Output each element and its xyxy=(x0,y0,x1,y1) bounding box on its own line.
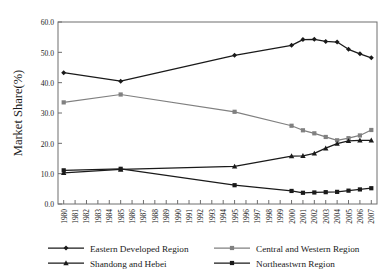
y-tick-label: 10.0 xyxy=(41,170,54,179)
data-point-marker xyxy=(62,168,66,172)
data-point-marker xyxy=(358,133,362,137)
data-point-marker xyxy=(369,186,373,190)
data-point-marker xyxy=(119,167,123,171)
data-point-marker xyxy=(312,190,316,194)
x-tick-label: 1995 xyxy=(231,209,240,224)
data-point-marker xyxy=(289,124,293,128)
data-point-marker xyxy=(346,189,350,193)
x-tick-label: 1986 xyxy=(128,209,137,224)
x-tick-label: 1989 xyxy=(162,209,171,224)
x-tick-label: 1990 xyxy=(174,209,183,224)
legend-label: Shandong and Hebei xyxy=(90,259,167,269)
x-tick-label: 2000 xyxy=(288,209,297,224)
y-axis-title-text: Market Share(%) xyxy=(11,70,25,156)
x-tick-label: 1999 xyxy=(276,209,285,224)
data-point-marker xyxy=(312,131,316,135)
x-tick-label: 2002 xyxy=(310,209,319,224)
data-point-marker xyxy=(62,100,66,104)
x-tick-label: 1992 xyxy=(196,209,205,224)
y-axis-title: Market Share(%) xyxy=(11,70,25,156)
legend-label: Northeastwrn Region xyxy=(256,259,335,269)
legend-label: Eastern Developed Region xyxy=(90,244,189,254)
x-tick-label: 2004 xyxy=(333,209,342,224)
data-point-marker xyxy=(335,190,339,194)
data-point-marker xyxy=(324,135,328,139)
x-tick-label: 1982 xyxy=(82,209,91,224)
data-point-marker xyxy=(301,191,305,195)
data-point-marker xyxy=(369,128,373,132)
y-tick-label: 0.0 xyxy=(45,200,55,209)
data-point-marker xyxy=(301,128,305,132)
x-tick-label: 1996 xyxy=(242,209,251,224)
market-share-line-chart: Market Share(%) 0.010.020.030.040.050.06… xyxy=(0,0,384,276)
data-point-marker xyxy=(289,189,293,193)
chart-figure: Market Share(%) 0.010.020.030.040.050.06… xyxy=(0,0,384,276)
data-point-marker xyxy=(119,92,123,96)
x-tick-label: 2006 xyxy=(356,209,365,224)
x-tick-label: 1987 xyxy=(139,209,148,224)
y-tick-label: 50.0 xyxy=(41,49,54,58)
y-tick-label: 30.0 xyxy=(41,109,54,118)
x-tick-label: 2003 xyxy=(322,209,331,224)
x-tick-label: 1980 xyxy=(60,209,69,224)
legend-label: Central and Western Region xyxy=(256,244,360,254)
y-tick-label: 20.0 xyxy=(41,140,54,149)
x-tick-label: 1997 xyxy=(253,209,262,224)
data-point-marker xyxy=(324,190,328,194)
data-point-marker xyxy=(232,183,236,187)
x-tick-label: 1983 xyxy=(94,209,103,224)
x-tick-label: 1981 xyxy=(71,209,80,224)
data-point-marker xyxy=(230,261,234,265)
x-tick-label: 1984 xyxy=(105,209,114,224)
x-tick-label: 1993 xyxy=(208,209,217,224)
x-tick-label: 1998 xyxy=(265,209,274,224)
data-point-marker xyxy=(230,246,234,250)
x-tick-label: 2007 xyxy=(367,209,376,224)
x-tick-label: 1994 xyxy=(219,209,228,224)
x-tick-label: 1988 xyxy=(151,209,160,224)
x-tick-label: 2005 xyxy=(345,209,354,224)
y-tick-label: 60.0 xyxy=(41,18,54,27)
x-tick-label: 1985 xyxy=(117,209,126,224)
x-tick-label: 1991 xyxy=(185,209,194,224)
data-point-marker xyxy=(358,187,362,191)
y-tick-label: 40.0 xyxy=(41,79,54,88)
data-point-marker xyxy=(232,110,236,114)
x-tick-label: 2001 xyxy=(299,209,308,224)
